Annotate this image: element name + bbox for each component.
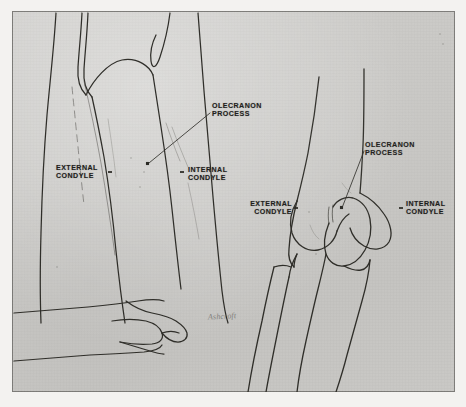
anatomy-line-art [12, 11, 455, 392]
paper-spot [442, 43, 444, 45]
label-olecranon-process-left: OLECRANON PROCESS [212, 102, 262, 119]
external-condyle-tick-left [108, 171, 112, 173]
internal-condyle-tick-left [180, 171, 184, 173]
illustration-plate: OLECRANON PROCESS EXTERNAL CONDYLE INTER… [0, 0, 466, 407]
label-olecranon-process-right: OLECRANON PROCESS [365, 141, 455, 158]
external-condyle-tick-right [294, 207, 298, 209]
paper-spot [56, 266, 58, 268]
paper-spot [130, 157, 132, 159]
paper-spot [308, 211, 310, 213]
paper-spot [143, 171, 145, 173]
label-internal-condyle-left: INTERNAL CONDYLE [188, 166, 227, 183]
left-olecranon-leader-line [149, 113, 210, 163]
olecranon-point-marker-left [146, 162, 149, 165]
paper-spot [439, 33, 441, 35]
label-internal-condyle-right: INTERNAL CONDYLE [406, 200, 445, 217]
internal-condyle-tick-right [399, 207, 403, 209]
paper-spot [139, 186, 141, 188]
paper-spot [315, 253, 317, 255]
label-external-condyle-left: EXTERNAL CONDYLE [56, 164, 98, 181]
plate-image-area: OLECRANON PROCESS EXTERNAL CONDYLE INTER… [12, 11, 455, 392]
label-external-condyle-right: EXTERNAL CONDYLE [238, 200, 292, 217]
olecranon-point-marker-right [340, 206, 343, 209]
right-figure-skeleton [248, 69, 391, 392]
